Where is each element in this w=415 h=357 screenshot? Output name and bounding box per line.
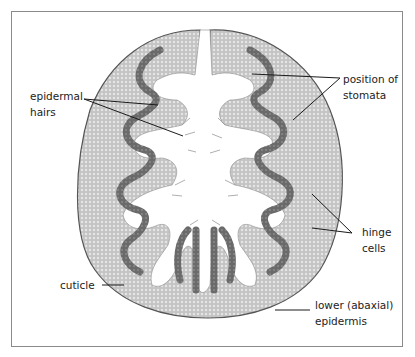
label-epidermal-hairs: epidermal hairs — [30, 88, 83, 120]
label-cuticle: cuticle — [60, 277, 95, 293]
label-lower-epidermis: lower (abaxial) epidermis — [315, 297, 393, 329]
label-hinge-cells: hinge cells — [362, 224, 391, 256]
label-position-of-stomata: position of stomata — [343, 71, 398, 103]
